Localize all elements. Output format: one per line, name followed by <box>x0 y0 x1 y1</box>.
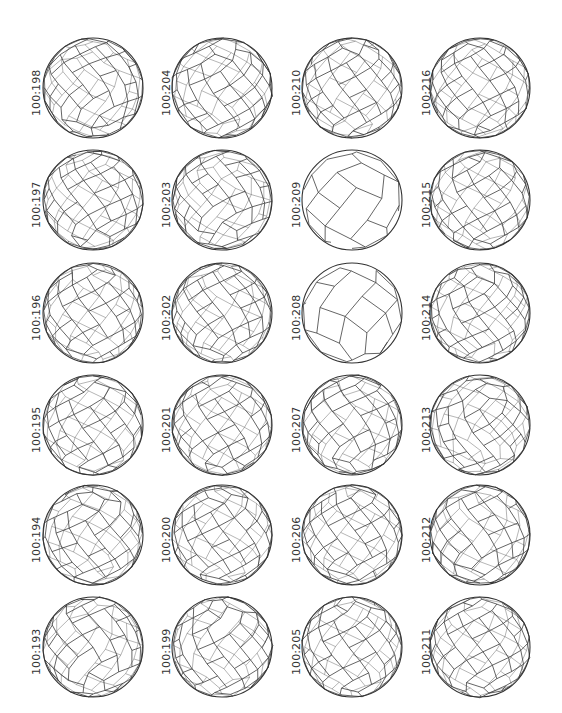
fullerene-cage-image <box>300 483 404 587</box>
fullerene-cage-image <box>428 483 532 587</box>
fullerene-cage-image <box>41 483 145 587</box>
fullerene-cage-image <box>428 148 532 252</box>
fullerene-cage-image <box>41 595 145 699</box>
fullerene-figure: 100:198100:197100:196100:195100:194100:1… <box>0 0 562 713</box>
fullerene-cage-image <box>428 595 532 699</box>
fullerene-cage-image <box>170 148 274 252</box>
fullerene-cage-image <box>300 373 404 477</box>
fullerene-cage-image <box>428 36 532 140</box>
fullerene-cage-image <box>170 483 274 587</box>
fullerene-cage-image <box>170 261 274 365</box>
fullerene-cage-image <box>300 595 404 699</box>
fullerene-cage-image <box>41 148 145 252</box>
fullerene-cage-image <box>41 261 145 365</box>
fullerene-cage-image <box>300 36 404 140</box>
fullerene-cage-image <box>428 261 532 365</box>
fullerene-cage-image <box>170 36 274 140</box>
fullerene-cage-image <box>41 373 145 477</box>
fullerene-cage-image <box>300 148 404 252</box>
fullerene-cage-image <box>300 261 404 365</box>
fullerene-cage-image <box>428 373 532 477</box>
fullerene-cage-image <box>170 595 274 699</box>
fullerene-cage-image <box>41 36 145 140</box>
fullerene-cage-image <box>170 373 274 477</box>
